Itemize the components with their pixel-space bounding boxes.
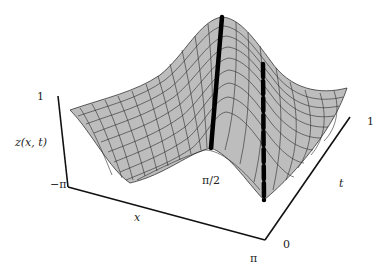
x-axis-line [68,187,265,240]
x-tick-max: π [250,253,257,264]
z-axis-line [58,96,68,187]
x-tick-mid: π/2 [202,175,220,186]
z-tick-left: 1 [37,91,44,102]
dashed-marker-line [263,64,264,200]
z-tick-right: 1 [367,116,374,127]
z-axis-label: z(x, t) [15,137,47,148]
x-axis-label: x [134,212,140,223]
surface [70,17,347,200]
x-tick-min: −π [50,179,66,190]
t-axis-label: t [339,178,343,189]
t-tick-min: 0 [283,239,290,250]
surface-plot: 1 z(x, t) −π x π/2 t 0 π 1 [0,0,388,277]
surface-plot-svg [0,0,388,277]
